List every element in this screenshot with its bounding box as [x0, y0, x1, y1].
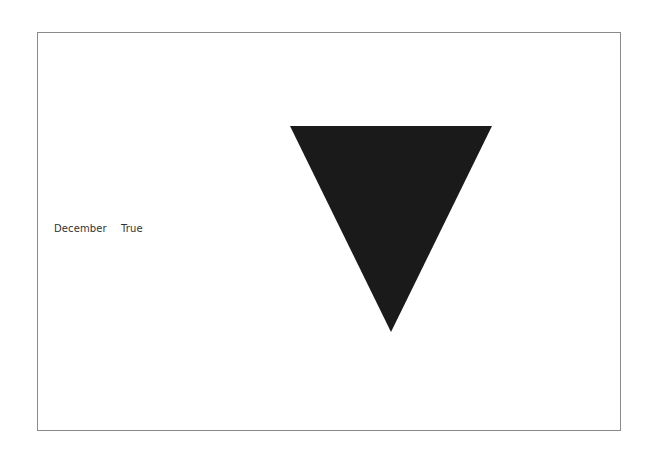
triangle-shape	[290, 126, 492, 332]
down-triangle-icon	[0, 0, 653, 451]
